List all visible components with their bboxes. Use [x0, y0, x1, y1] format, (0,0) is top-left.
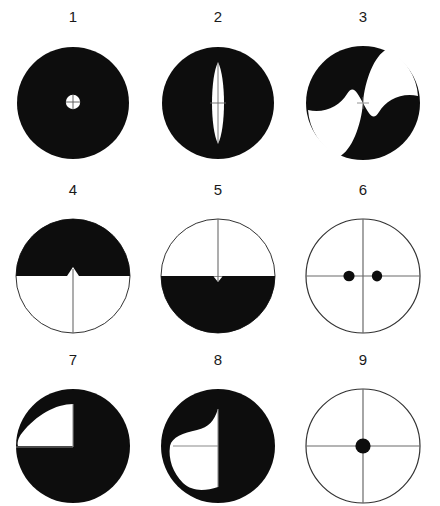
figure-cell-6: 6	[290, 181, 436, 349]
figure-plate: 1 2 3	[0, 0, 440, 506]
figure-1-filled-disc-with-central-white-circle	[0, 30, 146, 176]
figure-cell-5: 5	[145, 181, 291, 349]
figure-cell-1: 1	[0, 8, 146, 176]
figure-cell-3: 3	[290, 8, 436, 176]
figure-8-filled-disc-white-left-crescent	[145, 373, 291, 506]
figure-5-bottom-half-black-with-downward-notch	[145, 203, 291, 349]
figure-4-top-half-black-with-upward-notch	[0, 203, 146, 349]
figure-label-8: 8	[145, 351, 291, 369]
figure-label-9: 9	[290, 351, 436, 369]
figure-label-2: 2	[145, 8, 291, 26]
figure-label-1: 1	[0, 8, 146, 26]
figure-3-pinwheel-two-white-blades	[290, 30, 436, 176]
figure-2-filled-disc-with-vertical-white-lens	[145, 30, 291, 176]
figure-label-5: 5	[145, 181, 291, 199]
figure-9-outline-circle-crosshair-center-dot	[290, 373, 436, 506]
figure-label-6: 6	[290, 181, 436, 199]
figure-7-filled-disc-white-upper-left-region	[0, 373, 146, 506]
figure-label-7: 7	[0, 351, 146, 369]
figure-cell-9: 9	[290, 351, 436, 506]
figure-cell-2: 2	[145, 8, 291, 176]
figure-cell-4: 4	[0, 181, 146, 349]
figure-cell-8: 8	[145, 351, 291, 506]
figure-label-4: 4	[0, 181, 146, 199]
figure-label-3: 3	[290, 8, 436, 26]
figure-6-outline-circle-crosshair-two-dots	[290, 203, 436, 349]
figure-cell-7: 7	[0, 351, 146, 506]
